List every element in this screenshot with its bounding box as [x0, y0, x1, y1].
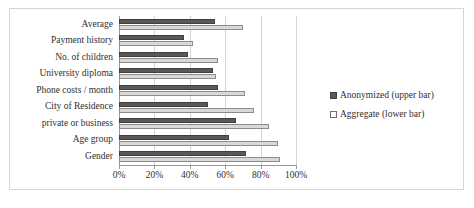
- bar-aggregate: [119, 25, 243, 30]
- x-axis-tick-label: 100%: [285, 170, 307, 180]
- x-axis-tick: [119, 165, 120, 169]
- bar-aggregate: [119, 108, 254, 113]
- bar-anonymized: [119, 151, 246, 156]
- category-label: Average: [12, 16, 118, 33]
- x-axis-ticks: [119, 165, 296, 169]
- bar-anonymized: [119, 118, 236, 123]
- category-axis: AveragePayment historyNo. of childrenUni…: [12, 16, 118, 165]
- category-label: Phone costs / month: [12, 82, 118, 99]
- bar-anonymized: [119, 35, 184, 40]
- bar-rows: [119, 16, 296, 165]
- chart-legend: Anonymized (upper bar)Aggregate (lower b…: [330, 90, 434, 119]
- bar-anonymized: [119, 102, 208, 107]
- bar-row: [119, 115, 296, 132]
- x-axis-tick-label: 80%: [252, 170, 269, 180]
- bar-row: [119, 66, 296, 83]
- legend-label: Aggregate (lower bar): [340, 109, 424, 119]
- bar-anonymized: [119, 19, 215, 24]
- bar-row: [119, 33, 296, 50]
- bar-anonymized: [119, 52, 188, 57]
- bar-row: [119, 82, 296, 99]
- bar-aggregate: [119, 141, 278, 146]
- category-label: private or business: [12, 115, 118, 132]
- x-axis-tick-label: 20%: [146, 170, 163, 180]
- bar-row: [119, 99, 296, 116]
- x-axis-tick: [261, 165, 262, 169]
- gridline: [296, 16, 297, 165]
- category-label: Gender: [12, 149, 118, 166]
- x-axis-tick-label: 60%: [216, 170, 233, 180]
- x-axis-tick-label: 40%: [181, 170, 198, 180]
- category-label: Age group: [12, 132, 118, 149]
- bar-aggregate: [119, 157, 280, 162]
- x-axis-tick: [190, 165, 191, 169]
- bar-anonymized: [119, 135, 229, 140]
- legend-label: Anonymized (upper bar): [340, 90, 434, 100]
- legend-swatch-icon: [330, 111, 337, 118]
- x-axis-tick: [296, 165, 297, 169]
- bar-anonymized: [119, 85, 218, 90]
- category-label: University diploma: [12, 66, 118, 83]
- category-label: Payment history: [12, 33, 118, 50]
- bar-aggregate: [119, 58, 218, 63]
- chart-frame: AveragePayment historyNo. of childrenUni…: [9, 8, 464, 190]
- bar-aggregate: [119, 74, 216, 79]
- bar-row: [119, 149, 296, 166]
- legend-entry[interactable]: Anonymized (upper bar): [330, 90, 434, 100]
- category-label: City of Residence: [12, 99, 118, 116]
- x-axis-tick-labels: 0%20%40%60%80%100%: [119, 170, 296, 184]
- x-axis-tick-label: 0%: [113, 170, 126, 180]
- legend-entry[interactable]: Aggregate (lower bar): [330, 109, 434, 119]
- bar-anonymized: [119, 68, 213, 73]
- bar-aggregate: [119, 124, 269, 129]
- x-axis-tick: [154, 165, 155, 169]
- bar-aggregate: [119, 91, 245, 96]
- bar-aggregate: [119, 41, 193, 46]
- legend-swatch-icon: [330, 92, 337, 99]
- bar-row: [119, 132, 296, 149]
- category-label: No. of children: [12, 49, 118, 66]
- plot-area: [119, 16, 296, 165]
- bar-row: [119, 49, 296, 66]
- x-axis-tick: [225, 165, 226, 169]
- bar-row: [119, 16, 296, 33]
